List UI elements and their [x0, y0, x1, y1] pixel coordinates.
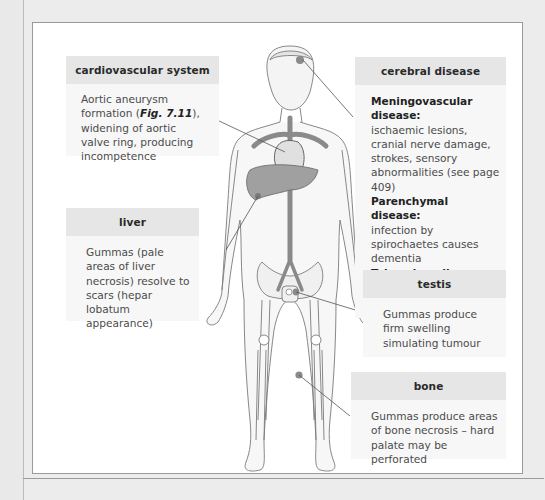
bone-title: bone [351, 372, 506, 400]
page-bottom-rule [23, 478, 544, 479]
testis-title: testis [363, 270, 506, 298]
liver-title: liver [66, 208, 199, 236]
meningovascular-heading: Meningovascular disease: [371, 95, 473, 121]
cardiovascular-text: Aortic aneurysm formation (Fig. 7.11), w… [66, 84, 219, 156]
bone-text: Gummas produce areas of bone necrosis – … [351, 400, 506, 459]
parenchymal-text: infection by spirochaetes causes dementi… [371, 224, 478, 265]
liver-box: liver Gummas (pale areas of liver necros… [66, 208, 199, 321]
parenchymal-heading: Parenchymal disease: [371, 195, 448, 221]
cardiovascular-box: cardiovascular system Aortic aneurysm fo… [66, 56, 219, 156]
liver-text: Gummas (pale areas of liver necrosis) re… [66, 236, 199, 321]
cardiovascular-title: cardiovascular system [66, 56, 219, 84]
figure-reference-link[interactable]: Fig. 7.11 [140, 107, 192, 119]
testis-text: Gummas produce firm swelling simulating … [363, 298, 506, 357]
meningovascular-text: ischaemic lesions, cranial nerve damage,… [371, 124, 499, 193]
cerebral-disease-title: cerebral disease [355, 57, 506, 85]
bone-box: bone Gummas produce areas of bone necros… [351, 372, 506, 459]
testis-box: testis Gummas produce firm swelling simu… [363, 270, 506, 357]
